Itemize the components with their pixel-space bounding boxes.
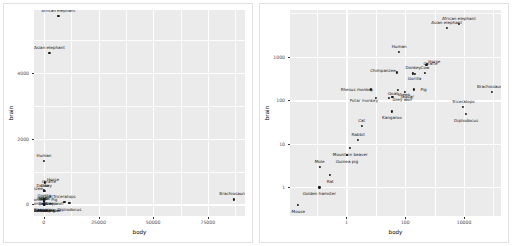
gridline-major-horizontal xyxy=(290,187,501,188)
data-point xyxy=(48,52,50,54)
data-point xyxy=(458,23,460,25)
gridline-major-vertical xyxy=(153,10,154,216)
data-point xyxy=(63,201,65,203)
x-axis-tick-mark xyxy=(208,217,209,219)
gridline-minor-horizontal xyxy=(34,40,245,41)
x-axis-tick-mark xyxy=(153,217,154,219)
data-point xyxy=(491,91,493,93)
gridline-minor-vertical xyxy=(493,10,494,216)
data-point xyxy=(398,51,400,53)
y-axis-tick-label: 100 xyxy=(260,98,285,103)
point-label: Giraffe xyxy=(42,179,56,184)
data-point xyxy=(329,174,331,176)
x-axis-tick-label: 0 xyxy=(42,220,45,225)
point-label: Human xyxy=(37,152,52,157)
point-label: Mole xyxy=(315,158,325,163)
point-label: Kangaroo xyxy=(382,115,402,120)
y-axis-tick-mark xyxy=(288,57,290,58)
y-axis-tick-mark xyxy=(288,187,290,188)
gridline-major-horizontal xyxy=(34,139,245,140)
x-axis-tick-label: 1 xyxy=(345,220,348,225)
gridline-minor-vertical xyxy=(376,10,377,216)
x-axis-tick-label: 50000 xyxy=(146,220,161,225)
x-axis-title: body xyxy=(133,229,147,235)
point-label: Dipliodocus xyxy=(57,206,81,211)
gridline-minor-vertical xyxy=(71,10,72,216)
point-label: Cat xyxy=(358,118,365,123)
y-axis-tick-label: 4000 xyxy=(4,70,29,75)
point-label: Gorilla xyxy=(408,75,421,80)
data-point xyxy=(465,112,467,114)
point-label: Chimpanzee xyxy=(34,185,43,190)
data-point xyxy=(357,139,359,141)
x-axis-title: body xyxy=(389,229,403,235)
data-point xyxy=(319,166,321,168)
point-label: Jaguar xyxy=(401,93,414,98)
point-label: Dipliodocus xyxy=(454,117,478,122)
y-axis-title: brain xyxy=(264,106,270,120)
gridline-minor-vertical xyxy=(126,10,127,216)
point-label: Guinea pig xyxy=(336,159,358,164)
point-label: Golden hamster xyxy=(303,191,336,196)
point-label: Donkey xyxy=(405,65,421,70)
point-label: Rabbit xyxy=(352,132,365,137)
point-label: Rhesus monkey xyxy=(341,87,374,92)
gridline-minor-vertical xyxy=(235,10,236,216)
y-axis-tick-label: 10 xyxy=(260,141,285,146)
x-axis-tick-label: 10000 xyxy=(457,220,472,225)
data-point xyxy=(446,27,448,29)
y-axis-title: brain xyxy=(8,106,14,120)
data-point xyxy=(413,88,415,90)
y-axis-tick-label: 1000 xyxy=(260,54,285,59)
gridline-minor-vertical xyxy=(317,10,318,216)
x-axis-tick-mark xyxy=(464,217,465,219)
point-label: Jaguar xyxy=(39,201,52,206)
point-label: Mouse xyxy=(292,208,305,213)
gridline-major-vertical xyxy=(346,10,347,216)
data-point xyxy=(57,15,59,17)
gridline-minor-vertical xyxy=(181,10,182,216)
point-label: Triceratops xyxy=(452,99,475,104)
gridline-major-vertical xyxy=(405,10,406,216)
y-axis-tick-mark xyxy=(288,144,290,145)
point-label: Pig xyxy=(421,87,427,92)
y-axis-tick-mark xyxy=(32,204,34,205)
point-label: African elephant xyxy=(442,16,476,21)
point-label: Human xyxy=(392,43,407,48)
x-axis-tick-label: 25000 xyxy=(91,220,106,225)
point-label: Mountain beaver xyxy=(333,151,368,156)
gridline-major-vertical xyxy=(99,10,100,216)
scatter-plot-linear: Mountain beaverCowGrey wolfGoatGuinea pi… xyxy=(3,3,253,243)
data-point xyxy=(396,71,398,73)
plot-panel: Mountain beaverCowGrey wolfGoatGuinea pi… xyxy=(290,10,501,216)
x-axis-tick-mark xyxy=(44,217,45,219)
gridline-minor-horizontal xyxy=(34,106,245,107)
point-label: Rat xyxy=(327,179,334,184)
point-label: Pig xyxy=(51,196,57,201)
point-label: Rat xyxy=(40,208,47,213)
point-label: Brachiosaurus xyxy=(219,191,245,196)
scatter-plot-loglog: Mountain beaverCowGrey wolfGoatGuinea pi… xyxy=(259,3,509,243)
x-axis-tick-mark xyxy=(99,217,100,219)
gridline-major-horizontal xyxy=(34,73,245,74)
screenshot-root: Mountain beaverCowGrey wolfGoatGuinea pi… xyxy=(0,0,512,246)
data-point xyxy=(388,97,390,99)
plot-panel: Mountain beaverCowGrey wolfGoatGuinea pi… xyxy=(34,10,245,216)
y-axis-tick-label: 0 xyxy=(4,202,29,207)
point-label: Brachiosaurus xyxy=(477,84,501,89)
gridline-minor-horizontal xyxy=(34,172,245,173)
data-point xyxy=(391,110,393,112)
gridline-major-horizontal xyxy=(290,144,501,145)
y-axis-tick-label: 1 xyxy=(260,185,285,190)
y-axis-tick-mark xyxy=(32,139,34,140)
y-axis-tick-mark xyxy=(288,100,290,101)
data-point xyxy=(424,72,426,74)
x-axis-tick-mark xyxy=(405,217,406,219)
data-point xyxy=(361,125,363,127)
point-label: African elephant xyxy=(41,10,75,13)
y-axis-tick-label: 2000 xyxy=(4,136,29,141)
gridline-major-vertical xyxy=(208,10,209,216)
y-axis-tick-mark xyxy=(32,73,34,74)
point-label: Potar monkey xyxy=(350,97,378,102)
gridline-minor-horizontal xyxy=(290,13,501,14)
